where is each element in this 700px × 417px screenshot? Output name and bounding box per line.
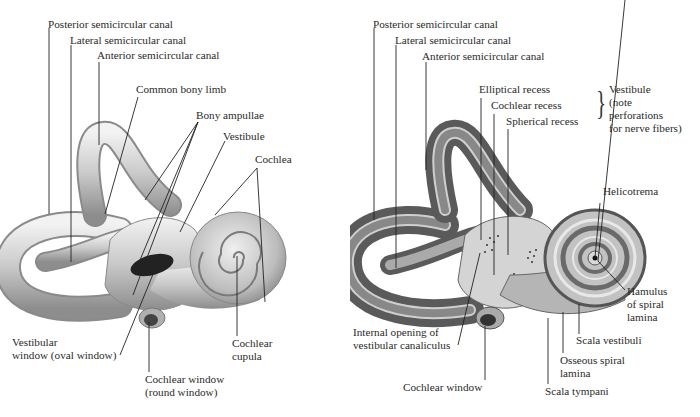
label-internal-opening-line1: Internal opening of	[353, 326, 439, 339]
label-elliptical-recess: Elliptical recess	[479, 83, 550, 96]
vestibule-brace: }	[596, 86, 606, 120]
opened-labyrinth-illustration	[350, 0, 700, 417]
label-hamulus-line1: Hamulus	[627, 285, 667, 298]
label-cochlear-window-line2: (round window)	[145, 386, 217, 399]
label-scala-vestibuli: Scala vestibuli	[576, 334, 642, 347]
label-scala-tympani: Scala tympani	[545, 385, 609, 398]
label-internal-opening-line2: vestibular canaliculus	[353, 339, 450, 352]
label-vestibular-window-line2: window (oval window)	[12, 349, 116, 362]
label-hamulus-line2: of spiral	[627, 298, 664, 311]
label-lateral-semicircular-canal: Lateral semicircular canal	[70, 34, 186, 47]
label-posterior-semicircular-canal: Posterior semicircular canal	[48, 18, 173, 31]
opened-labyrinth-panel: Posterior semicircular canal Lateral sem…	[350, 0, 700, 417]
label-helicotrema: Helicotrema	[603, 185, 658, 198]
exterior-labyrinth-panel: Posterior semicircular canal Lateral sem…	[0, 0, 350, 417]
label-vestibule-note-line4: for nerve fibers)	[609, 122, 682, 135]
label-cochlear-window: Cochlear window	[403, 381, 482, 394]
label-vestibule-note-line3: perforations	[609, 109, 663, 122]
label-posterior-semicircular-canal: Posterior semicircular canal	[373, 18, 498, 31]
label-vestibule-note-line2: (note	[609, 96, 632, 109]
label-hamulus-line3: lamina	[627, 311, 657, 324]
label-cochlear-cupula-line1: Cochlear	[232, 337, 272, 350]
label-cochlea: Cochlea	[255, 153, 292, 166]
label-bony-ampullae: Bony ampullae	[196, 109, 264, 122]
label-anterior-semicircular-canal: Anterior semicircular canal	[422, 50, 544, 63]
label-common-bony-limb: Common bony limb	[136, 83, 226, 96]
label-lateral-semicircular-canal: Lateral semicircular canal	[395, 34, 511, 47]
label-vestibular-window-line1: Vestibular	[12, 336, 57, 349]
label-vestibule-note-line1: Vestibule	[609, 83, 651, 96]
label-cochlear-cupula-line2: cupula	[232, 350, 262, 363]
label-anterior-semicircular-canal: Anterior semicircular canal	[97, 49, 219, 62]
label-osseous-spiral-lamina-line1: Osseous spiral	[560, 354, 625, 367]
label-osseous-spiral-lamina-line2: lamina	[560, 367, 590, 380]
label-vestibule: Vestibule	[223, 130, 265, 143]
label-cochlear-window-line1: Cochlear window	[145, 373, 224, 386]
label-cochlear-recess: Cochlear recess	[491, 99, 562, 112]
label-spherical-recess: Spherical recess	[506, 115, 578, 128]
